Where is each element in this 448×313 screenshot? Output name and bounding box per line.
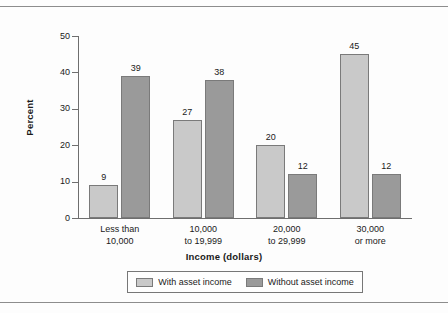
bar xyxy=(256,145,285,218)
legend-swatch-dark-icon xyxy=(246,278,263,287)
chart-legend: With asset income Without asset income xyxy=(127,271,363,293)
bar xyxy=(121,76,150,218)
bar-value-label: 38 xyxy=(205,68,234,77)
x-category-label: Less than10,000 xyxy=(78,224,162,247)
y-tick-label: 40 xyxy=(44,68,70,77)
figure-container: 01020304050 Percent 939273820124512 Less… xyxy=(0,0,448,313)
x-category-label-line1: 10,000 xyxy=(162,224,246,236)
x-axis-line xyxy=(78,218,412,219)
x-category-label-line1: Less than xyxy=(78,224,162,236)
bottom-divider-rule xyxy=(0,302,448,303)
bar xyxy=(288,174,317,218)
bar-value-label: 12 xyxy=(372,162,401,171)
y-tick-label: 20 xyxy=(44,141,70,150)
legend-swatch-light-icon xyxy=(136,278,153,287)
plot-area: 939273820124512 xyxy=(78,36,412,218)
legend-entry-with-asset-income: With asset income xyxy=(136,277,232,287)
y-tick-label: 10 xyxy=(44,177,70,186)
x-category-label: 20,000to 29,999 xyxy=(245,224,329,247)
y-tick-label: 50 xyxy=(44,32,70,41)
y-tick-label: 0 xyxy=(44,214,70,223)
top-divider-rule xyxy=(0,6,448,7)
x-category-label-line2: or more xyxy=(329,236,413,248)
bar-value-label: 9 xyxy=(89,173,118,182)
x-category-label-line1: 30,000 xyxy=(329,224,413,236)
bar xyxy=(340,54,369,218)
x-category-label-line2: to 29,999 xyxy=(245,236,329,248)
x-category-label: 30,000or more xyxy=(329,224,413,247)
y-axis-title: Percent xyxy=(24,83,35,153)
x-category-label-line2: to 19,999 xyxy=(162,236,246,248)
bar-value-label: 12 xyxy=(288,162,317,171)
x-axis-title: Income (dollars) xyxy=(0,251,448,262)
bar xyxy=(173,120,202,218)
legend-label-with-asset-income: With asset income xyxy=(158,277,232,287)
bar-value-label: 39 xyxy=(121,64,150,73)
bar-value-label: 27 xyxy=(173,108,202,117)
legend-entry-without-asset-income: Without asset income xyxy=(246,277,354,287)
bar xyxy=(205,80,234,218)
bar xyxy=(372,174,401,218)
y-tick-mark xyxy=(72,218,78,219)
x-category-label: 10,000to 19,999 xyxy=(162,224,246,247)
y-tick-label: 30 xyxy=(44,104,70,113)
x-category-label-line1: 20,000 xyxy=(245,224,329,236)
legend-label-without-asset-income: Without asset income xyxy=(268,277,354,287)
bar-value-label: 20 xyxy=(256,133,285,142)
x-category-label-line2: 10,000 xyxy=(78,236,162,248)
bar xyxy=(89,185,118,218)
bar-value-label: 45 xyxy=(340,42,369,51)
